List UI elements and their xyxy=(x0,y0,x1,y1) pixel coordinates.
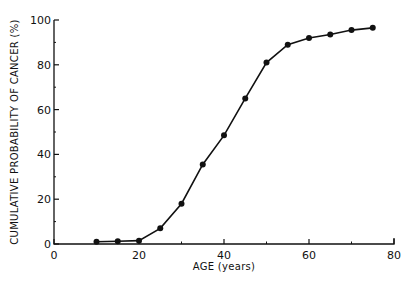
x-tick-label: 0 xyxy=(51,249,58,262)
data-point xyxy=(179,201,185,207)
axes xyxy=(54,20,394,244)
x-tick-label: 20 xyxy=(132,249,146,262)
x-tick-label: 60 xyxy=(302,249,316,262)
data-point xyxy=(200,161,206,167)
series-line xyxy=(97,28,373,242)
data-point xyxy=(349,27,355,33)
data-point xyxy=(115,238,121,244)
data-point xyxy=(94,239,100,245)
y-tick-label: 80 xyxy=(37,59,51,72)
y-tick-label: 20 xyxy=(37,193,51,206)
data-point xyxy=(136,238,142,244)
y-tick-label: 100 xyxy=(30,14,51,27)
data-point xyxy=(370,25,376,31)
data-point xyxy=(221,132,227,138)
data-point xyxy=(285,42,291,48)
data-point xyxy=(327,32,333,38)
data-point xyxy=(157,225,163,231)
x-axis-label: AGE (years) xyxy=(193,261,256,272)
y-tick-label: 60 xyxy=(37,104,51,117)
x-axis-ticks: 020406080 xyxy=(51,239,402,262)
data-series xyxy=(94,25,376,245)
data-point xyxy=(306,35,312,41)
y-axis-label: CUMULATIVE PROBABILITY OF CANCER (%) xyxy=(9,19,20,244)
x-tick-label: 80 xyxy=(387,249,401,262)
cumulative-probability-chart: 020406080100 020406080 AGE (years) CUMUL… xyxy=(0,0,409,283)
data-point xyxy=(264,60,270,66)
data-point xyxy=(242,95,248,101)
y-tick-label: 40 xyxy=(37,148,51,161)
axis-lines xyxy=(54,20,394,244)
